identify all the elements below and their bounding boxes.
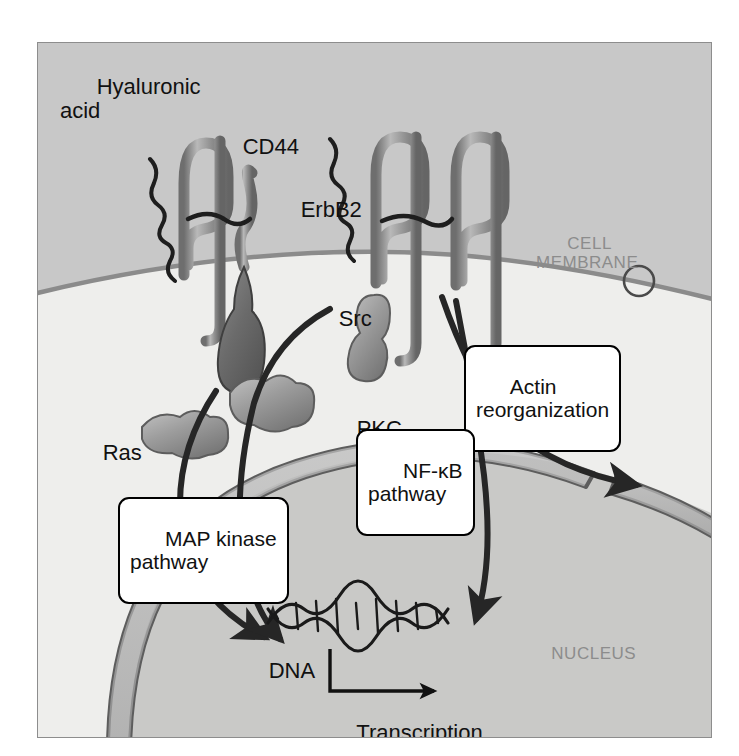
map-kinase-pathway-callout[interactable]: MAP kinase pathway [118,497,289,604]
transcription-activation-label: Transcription activation [320,697,483,738]
erbb2-label: ErbB2 [264,174,362,245]
hyaluronic-acid-label: Hyaluronic acid [60,51,201,146]
src-label: Src [302,283,372,354]
dna-label: DNA [232,635,315,706]
nucleus-label: NUCLEUS [520,625,636,682]
cell-membrane-label: CELL MEMBRANE [536,215,638,291]
cd44-label: CD44 [206,111,299,182]
diagram-frame: CELL MEMBRANE CYTOPLASM NUCLEUS Hyaluron… [37,42,712,738]
ras-label: Ras [66,417,142,488]
actin-reorganization-callout[interactable]: Actin reorganization [464,345,621,452]
figure-canvas: CELL MEMBRANE CYTOPLASM NUCLEUS Hyaluron… [0,0,739,756]
pkc-protein-blob [230,375,314,431]
nf-kb-pathway-callout[interactable]: NF-κB pathway [356,429,475,536]
